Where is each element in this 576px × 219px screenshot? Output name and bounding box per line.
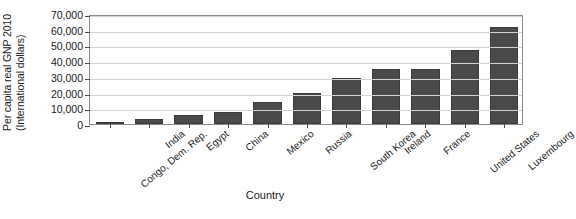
bar bbox=[332, 78, 360, 124]
bar bbox=[411, 69, 439, 124]
y-axis-tick-mark bbox=[85, 95, 90, 96]
y-axis-title-line-1: Per capita real GNP 2010 bbox=[1, 14, 13, 131]
x-tick-label: Egypt bbox=[204, 128, 231, 153]
x-tick-label: Mexico bbox=[284, 128, 315, 157]
gridline bbox=[90, 63, 522, 64]
bar bbox=[174, 115, 202, 124]
bar bbox=[214, 112, 242, 124]
y-axis-tick-mark bbox=[85, 110, 90, 111]
x-axis-tick-labels: Congo, Dem. Rep.IndiaEgyptChinaMexicoRus… bbox=[89, 126, 523, 188]
y-axis-tick-mark bbox=[85, 16, 90, 17]
y-axis-tick-mark bbox=[85, 79, 90, 80]
gridline bbox=[90, 32, 522, 33]
x-axis-title: Country bbox=[0, 189, 530, 201]
bar bbox=[372, 69, 400, 124]
gridline bbox=[90, 47, 522, 48]
y-axis-tick-labels: 010,00020,00030,00040,00050,00060,00070,… bbox=[36, 0, 86, 135]
y-tick-label: 60,000 bbox=[51, 25, 83, 37]
gridline bbox=[90, 110, 522, 111]
y-tick-label: 0 bbox=[77, 119, 83, 131]
gridline bbox=[90, 95, 522, 96]
x-tick-label: France bbox=[442, 128, 473, 156]
x-tick-label: China bbox=[243, 128, 270, 153]
y-tick-label: 10,000 bbox=[51, 103, 83, 115]
bar bbox=[253, 102, 281, 124]
bar bbox=[451, 50, 479, 124]
y-axis-tick-mark bbox=[85, 32, 90, 33]
y-axis-tick-mark bbox=[85, 63, 90, 64]
x-tick-label: Russia bbox=[323, 128, 353, 156]
y-axis-title: Per capita real GNP 2010 (International … bbox=[0, 0, 38, 135]
y-tick-label: 20,000 bbox=[51, 88, 83, 100]
y-tick-label: 30,000 bbox=[51, 72, 83, 84]
gridline bbox=[90, 79, 522, 80]
bar bbox=[293, 93, 321, 124]
y-axis-tick-mark bbox=[85, 47, 90, 48]
y-tick-label: 50,000 bbox=[51, 40, 83, 52]
gridline bbox=[90, 16, 522, 17]
y-tick-label: 70,000 bbox=[51, 9, 83, 21]
y-tick-label: 40,000 bbox=[51, 56, 83, 68]
plot-area bbox=[89, 15, 523, 125]
y-axis-title-line-2: (International dollars) bbox=[14, 35, 26, 131]
